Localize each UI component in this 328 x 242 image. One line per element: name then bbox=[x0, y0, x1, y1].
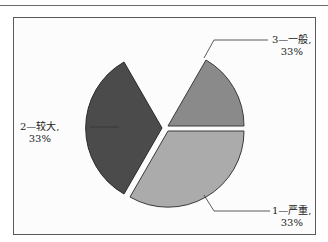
leader-line-1 bbox=[204, 195, 270, 211]
slice-label-3-percent: 33% bbox=[272, 46, 312, 58]
pie-slice-3 bbox=[168, 60, 244, 126]
slice-label-1: 1—严重, 33% bbox=[272, 205, 312, 229]
slice-label-3: 3—一般, 33% bbox=[272, 34, 312, 58]
slice-label-1-name: 1—严重, bbox=[272, 205, 312, 217]
slice-label-2-name: 2—较大, bbox=[20, 121, 60, 133]
slice-label-1-percent: 33% bbox=[272, 217, 312, 229]
slice-label-2: 2—较大, 33% bbox=[20, 121, 60, 145]
slice-label-2-percent: 33% bbox=[20, 133, 60, 145]
slice-label-3-name: 3—一般, bbox=[272, 34, 312, 46]
leader-line-3 bbox=[204, 40, 268, 58]
